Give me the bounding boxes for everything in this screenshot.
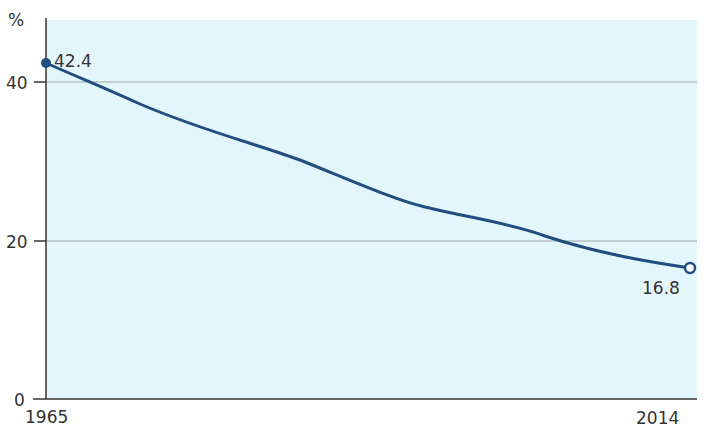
y-tick-label-40: 40 — [6, 73, 28, 93]
y-tick-label-0: 0 — [14, 390, 25, 410]
line-chart: % 40 20 0 1965 2014 42.4 16.8 — [0, 0, 707, 439]
end-point-marker — [685, 263, 695, 273]
y-axis-unit: % — [8, 10, 24, 30]
x-tick-label-start: 1965 — [25, 407, 68, 427]
y-tick-label-20: 20 — [6, 232, 28, 252]
end-value-label: 16.8 — [642, 278, 680, 298]
x-tick-label-end: 2014 — [636, 408, 679, 428]
start-point-marker — [41, 58, 51, 68]
start-value-label: 42.4 — [54, 51, 92, 71]
plot-area — [46, 20, 697, 398]
